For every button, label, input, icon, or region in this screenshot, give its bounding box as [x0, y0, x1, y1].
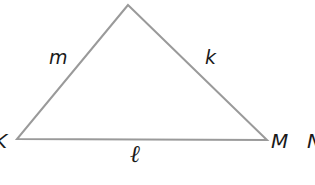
vertex-label-k-upper: K [0, 131, 7, 151]
side-label-k: k [205, 48, 216, 67]
vertex-label-m-upper: M [271, 131, 288, 151]
side-label-ell: ℓ [130, 142, 140, 166]
triangle-shape [17, 5, 267, 140]
partial-vertex-label: N [307, 131, 315, 151]
side-label-m: m [49, 48, 68, 67]
triangle-figure [0, 0, 315, 185]
triangle-diagram: K M N m k ℓ [0, 0, 315, 185]
